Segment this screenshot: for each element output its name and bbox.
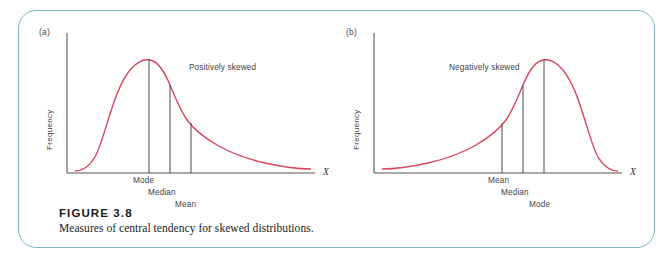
figure-caption: FIGURE 3.8 Measures of central tendency … [59,207,619,234]
panel-a-x-axis-label: X [323,167,329,177]
figure-border-box: (a) Frequency Positively skewed X Mode M… [18,10,655,248]
figure-caption-text: Measures of central tendency for skewed … [59,222,619,234]
panel-a-label-median: Median [148,188,176,197]
panel-b-plot [344,25,654,185]
panel-b-distribution-curve [382,60,618,171]
figure-screenshot: (a) Frequency Positively skewed X Mode M… [0,0,670,265]
panel-b-label-median: Median [501,188,529,197]
panel-negatively-skewed: (b) Frequency Negatively skewed X Mean M… [344,25,654,185]
panel-positively-skewed: (a) Frequency Positively skewed X Mode M… [37,25,347,185]
panel-b-x-axis-label: X [630,167,636,177]
panel-a-annotation: Positively skewed [189,63,256,72]
panel-a-plot [37,25,347,185]
figure-caption-title: FIGURE 3.8 [59,207,619,219]
panel-b-label-mean: Mean [488,176,509,185]
panel-b-annotation: Negatively skewed [449,63,520,72]
panel-a-distribution-curve [75,60,311,171]
panel-a-label-mode: Mode [133,176,154,185]
